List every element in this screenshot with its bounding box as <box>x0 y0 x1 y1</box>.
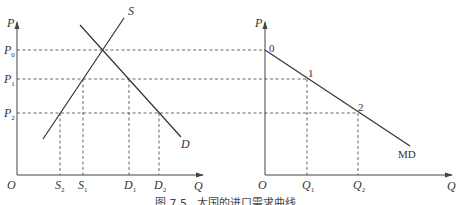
point-label-0: 0 <box>269 42 275 54</box>
svg-text:D2: D2 <box>153 178 167 194</box>
demand-label: D <box>180 137 190 151</box>
left-origin-label: O <box>7 178 16 192</box>
supply-label: S <box>128 4 134 18</box>
quantity-label-q1: Q1 <box>302 178 315 194</box>
svg-text:Q1: Q1 <box>302 178 315 194</box>
svg-text:Q2: Q2 <box>353 178 366 194</box>
right-y-axis-label: P <box>254 16 263 30</box>
price-label-p1: P1 <box>3 72 15 88</box>
quantity-label-d2: D2 <box>153 178 167 194</box>
svg-text:P2: P2 <box>3 106 15 122</box>
price-label-p0: P0 <box>3 43 15 59</box>
price-label-p2: P2 <box>3 106 15 122</box>
right-x-axis-label: Q <box>447 179 456 193</box>
left-y-axis-label: P <box>6 16 15 30</box>
left-x-axis-label: Q <box>194 179 203 193</box>
point-label-2: 2 <box>358 101 364 113</box>
import-demand-diagram: P O Q S D P0 P1 P2 S2 S1 D1 D2 <box>0 0 460 205</box>
quantity-label-d1: D1 <box>123 178 137 194</box>
quantity-label-q2: Q2 <box>353 178 366 194</box>
quantity-label-s2: S2 <box>55 178 65 194</box>
point-label-1: 1 <box>308 67 314 79</box>
svg-text:S2: S2 <box>55 178 65 194</box>
md-curve <box>265 50 410 146</box>
svg-text:D1: D1 <box>123 178 137 194</box>
svg-text:P0: P0 <box>3 43 15 59</box>
quantity-label-s1: S1 <box>78 178 88 194</box>
left-panel: P O Q S D P0 P1 P2 S2 S1 D1 D2 <box>3 4 358 194</box>
svg-text:S1: S1 <box>78 178 88 194</box>
demand-curve <box>80 25 181 137</box>
right-origin-label: O <box>258 178 267 192</box>
svg-text:P1: P1 <box>3 72 15 88</box>
md-label: MD <box>398 148 416 160</box>
supply-curve <box>43 18 124 139</box>
right-panel: P O Q 0 1 2 MD Q1 Q2 <box>254 16 456 194</box>
figure-caption: 图 7.5 大国的进口需求曲线 <box>155 196 296 205</box>
